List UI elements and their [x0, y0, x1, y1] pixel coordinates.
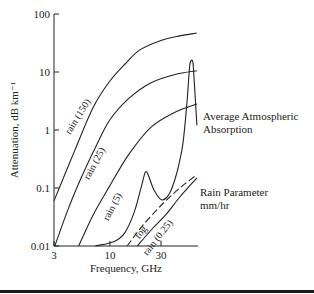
- attenuation-chart: 0.010.111010031030 rain (150)rain (25)ra…: [0, 0, 314, 294]
- series-rain-5: [79, 104, 197, 246]
- bottom-rule: [0, 290, 314, 293]
- curve-label-fog: fog: [132, 223, 149, 240]
- curve-label-rain-25: rain (25): [81, 145, 108, 181]
- x-tick-label: 30: [156, 249, 168, 261]
- curves: [54, 33, 197, 246]
- y-axis-title: Attenuation, dB km⁻¹: [8, 82, 20, 178]
- y-tick-label: 0.1: [36, 182, 50, 194]
- y-tick-label: 100: [34, 8, 51, 20]
- annotation-rain-parameter-line1: Rain Parameter: [200, 186, 268, 198]
- annotation-rain-parameter-line2: mm/hr: [200, 199, 230, 211]
- x-tick-label: 10: [104, 249, 116, 261]
- curve-labels: rain (150)rain (25)rain (5)fograin (0.25…: [62, 97, 175, 258]
- y-tick-label: 0.01: [31, 240, 50, 252]
- axes: [54, 14, 198, 246]
- annotation-atmospheric-line1: Average Atmospheric: [203, 110, 299, 122]
- y-tick-label: 1: [45, 124, 51, 136]
- series-rain-0-25: [137, 178, 197, 246]
- x-axis-title: Frequency, GHz: [90, 262, 162, 274]
- annotation-atmospheric-line2: Absorption: [203, 123, 253, 135]
- x-tick-label: 3: [51, 249, 57, 261]
- y-tick-label: 10: [39, 66, 51, 78]
